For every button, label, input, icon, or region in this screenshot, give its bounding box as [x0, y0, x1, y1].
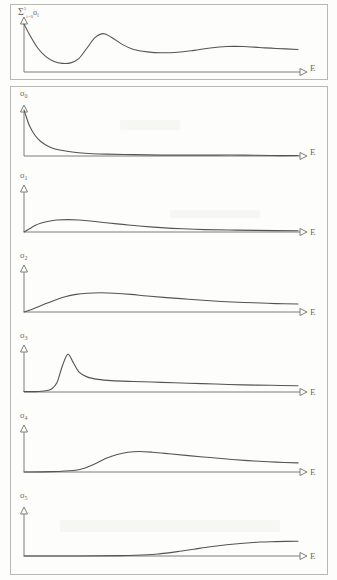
- y-axis-arrowhead: [21, 185, 28, 192]
- panel-label-sigma3: σ3: [20, 330, 28, 341]
- curve-total: [24, 24, 298, 64]
- x-axis-arrowhead: [300, 69, 307, 76]
- panel-sigma0: [18, 88, 318, 164]
- x-axis-label-sigma2: E: [310, 307, 316, 317]
- curve-sigma4: [24, 451, 298, 472]
- curve-sigma1: [24, 220, 298, 232]
- x-axis-arrowhead: [300, 309, 307, 316]
- panel-sigma4: [18, 410, 318, 482]
- x-axis-label-total: E: [310, 63, 316, 73]
- curve-sigma5: [24, 541, 298, 556]
- sigma-index: 3: [25, 335, 28, 341]
- panel-sigma1-plot: [18, 170, 318, 242]
- x-axis-label-sigma3: E: [310, 387, 316, 397]
- panel-label-sigma1: σ1: [20, 170, 28, 181]
- panel-sigma4-plot: [18, 410, 318, 482]
- total-label: Σ5i=0σi: [18, 6, 39, 19]
- panel-label-sigma5: σ5: [20, 490, 28, 501]
- x-axis-arrowhead: [300, 229, 307, 236]
- panel-label-sigma0: σ0: [20, 88, 28, 99]
- sigma-term-index: i: [37, 12, 39, 18]
- panel-label-sigma2: σ2: [20, 250, 28, 261]
- x-axis-label-sigma0: E: [310, 147, 316, 157]
- panel-total-plot: [18, 4, 318, 80]
- x-axis-label-sigma5: E: [310, 551, 316, 561]
- panel-sigma3: [18, 330, 318, 402]
- panel-sigma1: [18, 170, 318, 242]
- curve-sigma0: [24, 110, 298, 156]
- x-axis-label-sigma4: E: [310, 467, 316, 477]
- x-axis-arrowhead: [300, 469, 307, 476]
- panel-total-cross-section: [18, 4, 318, 80]
- sum-upper-limit: 5: [24, 6, 27, 11]
- x-axis-arrowhead: [300, 153, 307, 160]
- x-axis-label-sigma1: E: [310, 227, 316, 237]
- x-axis-arrowhead: [300, 389, 307, 396]
- sigma-index: 1: [25, 175, 28, 181]
- y-axis-arrowhead: [21, 345, 28, 352]
- panel-sigma2-plot: [18, 250, 318, 322]
- curve-sigma3: [24, 354, 298, 391]
- panel-label-sigma4: σ4: [20, 410, 28, 421]
- panel-sigma5-plot: [18, 490, 318, 566]
- panel-sigma3-plot: [18, 330, 318, 402]
- cross-section-figure: Σ5i=0σi E σ0 E σ1 E: [0, 0, 337, 580]
- sigma-index: 4: [25, 415, 28, 421]
- sigma-index: 5: [25, 495, 28, 501]
- panel-sigma0-plot: [18, 88, 318, 164]
- curve-sigma2: [24, 293, 298, 312]
- y-axis-arrowhead: [21, 507, 28, 514]
- panel-sigma2: [18, 250, 318, 322]
- sigma-index: 2: [25, 255, 28, 261]
- y-axis-arrowhead: [21, 425, 28, 432]
- x-axis-arrowhead: [300, 553, 307, 560]
- panel-sigma5: [18, 490, 318, 566]
- y-axis-arrowhead: [21, 265, 28, 272]
- sigma-index: 0: [25, 93, 28, 99]
